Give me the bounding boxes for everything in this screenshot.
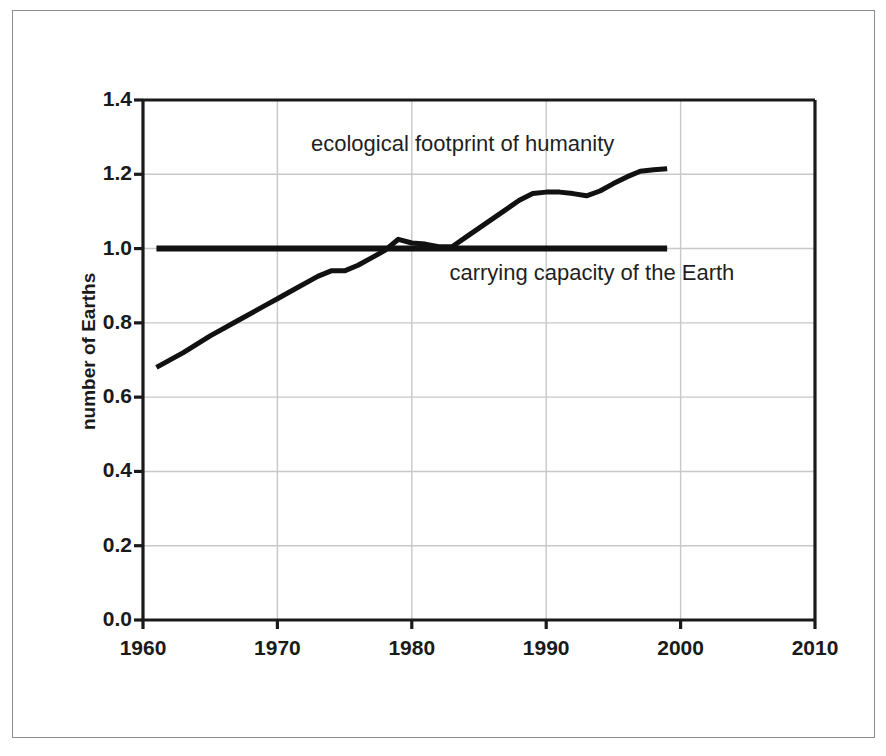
y-tick-label: 1.2 (72, 161, 132, 185)
y-tick-label: 0.4 (72, 458, 132, 482)
x-tick-label: 1980 (372, 636, 452, 660)
gridlines (143, 100, 815, 620)
chart-page: 0.00.20.40.60.81.01.21.4 196019701980199… (0, 0, 886, 756)
axis-lines (143, 100, 815, 620)
y-axis-title: number of Earths (78, 273, 100, 430)
x-tick-label: 1990 (506, 636, 586, 660)
y-tick-label: 0.0 (72, 607, 132, 631)
ecological-footprint-label: ecological footprint of humanity (311, 131, 614, 157)
x-tick-label: 1960 (103, 636, 183, 660)
x-tick-label: 2010 (775, 636, 855, 660)
carrying-capacity-label: carrying capacity of the Earth (449, 260, 734, 286)
y-tick-label: 1.4 (72, 87, 132, 111)
y-tick-label: 0.2 (72, 533, 132, 557)
y-tick-label: 1.0 (72, 236, 132, 260)
x-tick-label: 2000 (641, 636, 721, 660)
x-tick-label: 1970 (237, 636, 317, 660)
axis-ticks (134, 100, 815, 629)
chart-canvas: 0.00.20.40.60.81.01.21.4 196019701980199… (0, 0, 886, 756)
